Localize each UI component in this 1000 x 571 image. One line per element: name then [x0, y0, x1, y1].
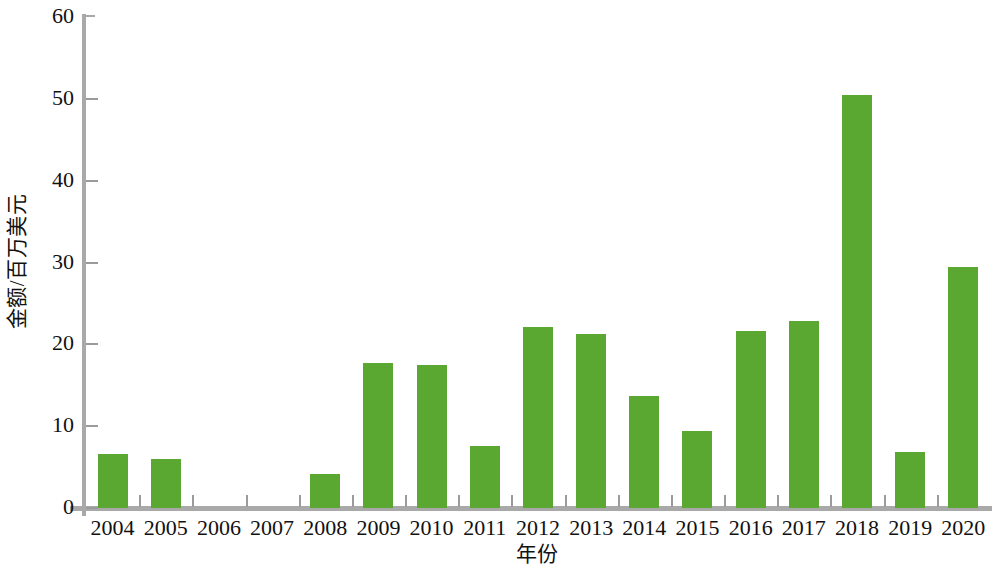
bar-slot [724, 17, 777, 508]
y-tick-label-wrap: 10 [28, 414, 74, 436]
bar-slot [352, 17, 405, 508]
x-tick-label: 2020 [937, 514, 990, 542]
y-axis-title: 金额/百万美元 [0, 0, 30, 571]
y-tick-label-wrap: 50 [28, 87, 74, 109]
y-tick-label-wrap: 40 [28, 169, 74, 191]
x-tick-label: 2017 [777, 514, 830, 542]
bar-slot [86, 17, 139, 508]
bar-slot [618, 17, 671, 508]
x-tick-label: 2013 [565, 514, 618, 542]
bar-slot [299, 17, 352, 508]
x-axis-ticks [86, 495, 990, 507]
x-tick-mark [246, 495, 248, 507]
x-tick-mark [192, 495, 194, 507]
y-tick-label: 50 [32, 87, 74, 109]
x-tick-label: 2012 [511, 514, 564, 542]
bar [417, 365, 447, 508]
x-tick-label: 2019 [884, 514, 937, 542]
y-tick-label-wrap: 20 [28, 332, 74, 354]
y-axis-title-text: 金额/百万美元 [0, 194, 30, 329]
x-tick-mark [830, 495, 832, 507]
bar [948, 267, 978, 508]
bar [789, 321, 819, 508]
x-tick-mark [724, 495, 726, 507]
y-tick-label: 60 [32, 5, 74, 27]
bar-slot [565, 17, 618, 508]
x-tick-mark [937, 495, 939, 507]
bar [842, 95, 872, 508]
bar-slot [671, 17, 724, 508]
x-axis-title: 年份 [0, 540, 1000, 568]
bar [363, 363, 393, 508]
bar-slot [192, 17, 245, 508]
x-tick-label: 2018 [830, 514, 883, 542]
x-axis-labels: 2004200520062007200820092010201120122013… [86, 514, 990, 542]
bar-slot [511, 17, 564, 508]
bar-series [86, 17, 990, 508]
y-tick-label-wrap: 30 [28, 251, 74, 273]
x-tick-label: 2008 [299, 514, 352, 542]
y-tick-label: 10 [32, 414, 74, 436]
bar-slot [139, 17, 192, 508]
x-tick-label: 2004 [86, 514, 139, 542]
x-tick-mark [405, 495, 407, 507]
bar [629, 396, 659, 508]
y-tick-label: 0 [32, 496, 74, 518]
y-tick-label: 40 [32, 169, 74, 191]
bar-slot [937, 17, 990, 508]
x-tick-label: 2009 [352, 514, 405, 542]
bar-slot [777, 17, 830, 508]
x-tick-mark [618, 495, 620, 507]
bar [576, 334, 606, 508]
bar-slot [830, 17, 883, 508]
x-tick-label: 2006 [192, 514, 245, 542]
x-tick-label: 2005 [139, 514, 192, 542]
x-tick-label: 2015 [671, 514, 724, 542]
bar-slot [246, 17, 299, 508]
x-tick-label: 2016 [724, 514, 777, 542]
x-tick-mark [671, 495, 673, 507]
y-tick-label: 20 [32, 332, 74, 354]
bar [523, 327, 553, 508]
x-tick-label: 2007 [246, 514, 299, 542]
bar-slot [884, 17, 937, 508]
bar [736, 331, 766, 508]
plot-area [86, 17, 990, 508]
x-tick-mark [139, 495, 141, 507]
x-tick-mark [299, 495, 301, 507]
y-tick-label: 30 [32, 251, 74, 273]
x-tick-label: 2010 [405, 514, 458, 542]
bar-chart: 金额/百万美元 0102030405060 200420052006200720… [0, 0, 1000, 571]
y-tick-label-wrap: 0 [28, 496, 74, 518]
bar-slot [405, 17, 458, 508]
x-tick-mark [458, 495, 460, 507]
bar-slot [458, 17, 511, 508]
x-tick-label: 2011 [458, 514, 511, 542]
x-tick-label: 2014 [618, 514, 671, 542]
x-tick-mark [565, 495, 567, 507]
x-tick-mark [884, 495, 886, 507]
x-tick-mark [511, 495, 513, 507]
x-tick-mark [777, 495, 779, 507]
y-tick-label-wrap: 60 [28, 5, 74, 27]
x-tick-mark [352, 495, 354, 507]
